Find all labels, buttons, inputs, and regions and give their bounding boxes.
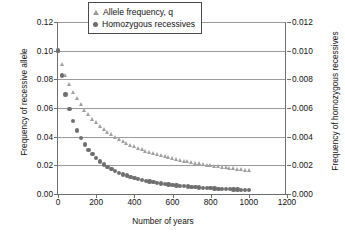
data-point (83, 142, 87, 146)
legend-label: Allele frequency, q (103, 7, 173, 17)
data-point (67, 107, 71, 111)
data-point (60, 73, 64, 77)
chart-figure: Frequency of recessive allele Frequency … (0, 0, 345, 236)
y-axis-right-tick-label: 0.006 (292, 104, 313, 112)
legend-item-homozygous-recessives: Homozygous recessives (93, 18, 195, 30)
x-axis-tick-label: 200 (89, 198, 103, 206)
data-point (56, 48, 60, 52)
legend-item-allele-frequency: Allele frequency, q (93, 6, 195, 18)
x-axis-title: Number of years (40, 216, 286, 226)
x-axis-tick-label: 0 (56, 198, 61, 206)
y-axis-right-tick (287, 51, 291, 52)
y-axis-right-tick (287, 165, 291, 166)
data-point (79, 136, 83, 140)
y-axis-right-tick-label: 0.008 (292, 75, 313, 83)
y-axis-right-tick-label: 0.002 (292, 161, 313, 169)
y-axis-left-tick-label: 0.00 (37, 190, 53, 198)
y-axis-right-tick (287, 137, 291, 138)
chart-legend: Allele frequency, q Homozygous recessive… (88, 2, 202, 34)
data-point (75, 128, 79, 132)
x-axis-tick-label: 800 (204, 198, 218, 206)
x-axis-tick-label: 1000 (240, 198, 258, 206)
y-axis-left-tick-label: 0.04 (37, 133, 53, 141)
y-axis-right-tick (287, 22, 291, 23)
y-axis-left-tick-label: 0.02 (37, 161, 53, 169)
data-point (63, 92, 67, 96)
y-axis-left-tick-label: 0.12 (37, 18, 53, 26)
y-axis-right-tick (287, 108, 291, 109)
y-axis-right-tick-label: 0.010 (292, 47, 313, 55)
y-axis-right-title: Frequency of homozygous recessives (330, 13, 340, 189)
plot-area: 0.000.020.040.060.080.100.12 0.0000.0020… (57, 22, 286, 194)
x-axis-tick-label: 400 (127, 198, 141, 206)
x-axis-tick-label: 1200 (278, 198, 296, 206)
circle-marker-icon (93, 22, 98, 27)
y-axis-left-tick-label: 0.06 (37, 104, 53, 112)
y-axis-right-tick-label: 0.012 (292, 18, 313, 26)
y-axis-right-tick-label: 0.004 (292, 133, 313, 141)
y-axis-left-tick-label: 0.10 (37, 47, 53, 55)
legend-label: Homozygous recessives (102, 19, 195, 29)
y-axis-left-tick-label: 0.08 (37, 75, 53, 83)
data-series (58, 22, 285, 194)
triangle-marker-icon (93, 10, 99, 15)
data-point (71, 119, 75, 123)
y-axis-left-title: Frequency of recessive allele (19, 27, 29, 177)
y-axis-right-tick (287, 79, 291, 80)
x-axis-tick-label: 600 (166, 198, 180, 206)
data-point (247, 188, 251, 192)
